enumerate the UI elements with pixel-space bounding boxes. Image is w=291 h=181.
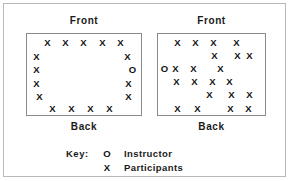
participant-mark-icon: X xyxy=(210,51,219,61)
participant-mark-icon: X xyxy=(79,38,88,48)
instructor-label: Instructor xyxy=(124,148,172,159)
participant-mark-icon: X xyxy=(105,104,114,114)
participant-mark-icon: X xyxy=(171,64,180,74)
front-label-left-room: Front xyxy=(26,15,142,26)
instructor-mark-icon: O xyxy=(160,64,169,74)
participant-mark-icon: X xyxy=(173,104,182,114)
room-box-right: XXXXXXXOXXXXXXXXXXXXXX xyxy=(157,33,266,116)
participant-mark-icon: X xyxy=(98,38,107,48)
participant-mark-icon: X xyxy=(216,64,225,74)
participant-mark-icon: X xyxy=(124,92,133,102)
participant-mark-icon: X xyxy=(32,79,41,89)
participant-mark-icon: X xyxy=(191,38,200,48)
participant-mark-icon: X xyxy=(32,52,41,62)
participant-symbol-icon: X xyxy=(102,162,112,173)
participant-mark-icon: X xyxy=(43,38,52,48)
participant-mark-icon: X xyxy=(209,38,218,48)
participant-mark-icon: X xyxy=(205,90,214,100)
participant-mark-icon: X xyxy=(245,51,254,61)
participant-mark-icon: X xyxy=(193,104,202,114)
participant-mark-icon: X xyxy=(208,77,217,87)
back-label-left-room: Back xyxy=(26,121,142,132)
participant-mark-icon: X xyxy=(123,52,132,62)
participant-mark-icon: X xyxy=(232,38,241,48)
participant-mark-icon: X xyxy=(124,79,133,89)
participant-mark-icon: X xyxy=(86,104,95,114)
participant-mark-icon: X xyxy=(226,104,235,114)
seating-arrangement-figure: Front XXXXXXXXOXXXXXXXX Back Front XXXXX… xyxy=(0,0,291,181)
participant-mark-icon: X xyxy=(172,77,181,87)
participant-mark-icon: X xyxy=(190,77,199,87)
room-box-left: XXXXXXXXOXXXXXXXX xyxy=(26,33,142,116)
participant-mark-icon: X xyxy=(32,65,41,75)
figure-outer-frame: Front XXXXXXXXOXXXXXXXX Back Front XXXXX… xyxy=(3,3,286,177)
participant-mark-icon: X xyxy=(116,38,125,48)
participants-label: Participants xyxy=(124,162,183,173)
participant-mark-icon: X xyxy=(67,104,76,114)
participant-mark-icon: X xyxy=(233,51,242,61)
front-label-right-room: Front xyxy=(157,15,266,26)
participant-mark-icon: X xyxy=(35,92,44,102)
participant-mark-icon: X xyxy=(189,64,198,74)
key-legend: Key: O Instructor X Participants xyxy=(66,147,246,177)
instructor-mark-icon: O xyxy=(128,65,137,75)
participant-mark-icon: X xyxy=(227,90,236,100)
back-label-right-room: Back xyxy=(157,121,266,132)
participant-mark-icon: X xyxy=(245,90,254,100)
key-title: Key: xyxy=(66,148,89,159)
participant-mark-icon: X xyxy=(173,38,182,48)
instructor-symbol-icon: O xyxy=(102,148,112,159)
participant-mark-icon: X xyxy=(48,104,57,114)
participant-mark-icon: X xyxy=(61,38,70,48)
participant-mark-icon: X xyxy=(244,104,253,114)
participant-mark-icon: X xyxy=(225,77,234,87)
